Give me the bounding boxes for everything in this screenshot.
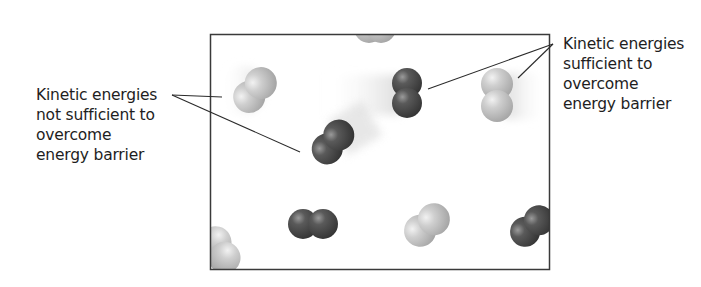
- molecule-light-sufficient: [481, 68, 513, 122]
- label-line: overcome: [36, 125, 157, 145]
- label-line: overcome: [563, 74, 684, 94]
- molecule-dark: [288, 209, 338, 239]
- molecule-dark-sufficient: [392, 68, 422, 118]
- molecule-light: [398, 197, 457, 254]
- molecule-dark: [504, 199, 560, 253]
- label-line: not sufficient to: [36, 105, 157, 125]
- leader-line-left-to-light: [172, 95, 222, 97]
- label-line: energy barrier: [563, 94, 684, 114]
- label-insufficient-energy: Kinetic energies not sufficient to overc…: [36, 85, 157, 165]
- label-line: Kinetic energies: [563, 34, 684, 54]
- label-line: energy barrier: [36, 145, 157, 165]
- molecules: [194, 13, 560, 280]
- label-sufficient-energy: Kinetic energies sufficient to overcome …: [563, 34, 684, 114]
- molecule-light: [354, 13, 396, 43]
- label-line: Kinetic energies: [36, 85, 157, 105]
- molecule-light: [194, 220, 247, 279]
- leader-line-right-to-light: [518, 44, 553, 78]
- label-line: sufficient to: [563, 54, 684, 74]
